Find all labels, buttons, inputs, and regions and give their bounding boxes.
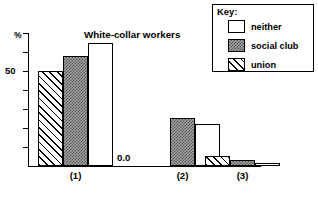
y-axis-tick-label-50: 50 [5, 66, 16, 76]
x-axis-group-label: (3) [205, 170, 280, 181]
zero-value-annotation: 0.0 [117, 152, 130, 163]
legend-swatch-social-club [228, 39, 245, 52]
bar-social-club-group-3 [230, 160, 255, 166]
bar-chart-figure: % 50 White-collar workers 0.0 (1)(2)(3) … [0, 0, 318, 202]
bar-neither-group-3 [255, 163, 280, 166]
legend-swatch-union [228, 58, 245, 71]
y-axis-unit-label: % [14, 31, 22, 40]
y-axis-tick [23, 52, 28, 53]
legend-label: neither [251, 21, 282, 33]
legend-title: Key: [217, 6, 237, 17]
legend-swatch-neither [228, 20, 245, 33]
y-axis-tick [23, 33, 28, 34]
legend-label: social club [251, 40, 299, 52]
bar-neither-group-1 [88, 43, 113, 166]
bar-union-group-1 [38, 71, 63, 166]
legend-label: union [251, 59, 276, 71]
y-axis-tick [23, 71, 28, 72]
y-axis-tick [23, 90, 28, 91]
y-axis-tick [23, 128, 28, 129]
y-axis-line [28, 33, 29, 166]
x-axis-group-label: (1) [38, 170, 113, 181]
bar-social-club-group-1 [63, 56, 88, 166]
y-axis-tick [23, 109, 28, 110]
y-axis-tick [23, 147, 28, 148]
bar-social-club-group-2 [170, 118, 195, 165]
x-axis-line [28, 166, 261, 167]
chart-title: White-collar workers [84, 29, 180, 40]
bar-union-group-3 [205, 156, 230, 166]
